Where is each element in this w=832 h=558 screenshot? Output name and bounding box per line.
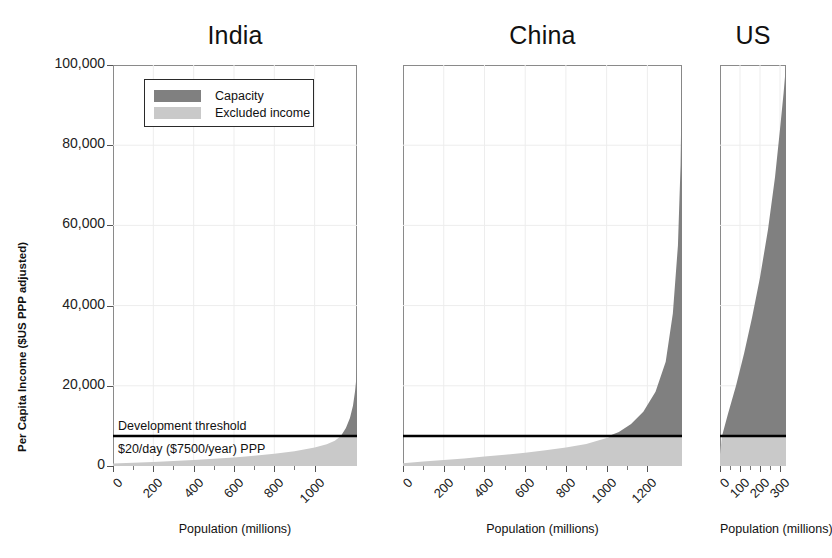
x-minor-tick-mark	[586, 466, 587, 470]
x-minor-tick-mark	[730, 466, 731, 470]
y-tick-label: 100,000	[15, 55, 105, 71]
y-tick-label: 60,000	[15, 215, 105, 231]
x-minor-tick-mark	[133, 466, 134, 470]
panel-title-us: US	[720, 21, 786, 50]
x-tick-mark	[566, 466, 567, 472]
x-tick-mark	[484, 466, 485, 472]
x-tick-mark	[780, 466, 781, 472]
chart-legend: CapacityExcluded income	[144, 79, 314, 127]
x-tick-mark	[760, 466, 761, 472]
threshold-label-below: $20/day ($7500/year) PPP	[118, 442, 265, 456]
x-tick-mark	[720, 466, 721, 472]
x-tick-mark	[113, 466, 114, 472]
y-tick-label: 0	[15, 456, 105, 472]
area-capacity	[609, 65, 682, 436]
panel-title-china: China	[403, 21, 682, 50]
legend-item-capacity: Capacity	[154, 87, 313, 104]
panel-title-india: India	[113, 21, 357, 50]
x-tick-mark	[153, 466, 154, 472]
legend-label: Capacity	[215, 89, 264, 103]
x-tick-mark	[403, 466, 404, 472]
x-minor-tick-mark	[173, 466, 174, 470]
x-tick-mark	[647, 466, 648, 472]
y-tick-label: 80,000	[15, 135, 105, 151]
x-axis-label-india: Population (millions)	[113, 522, 357, 536]
x-minor-tick-mark	[464, 466, 465, 470]
area-capacity	[722, 65, 786, 436]
x-minor-tick-mark	[770, 466, 771, 470]
x-minor-tick-mark	[750, 466, 751, 470]
x-minor-tick-mark	[627, 466, 628, 470]
x-tick-mark	[194, 466, 195, 472]
area-capacity	[341, 366, 357, 436]
x-tick-mark	[607, 466, 608, 472]
x-tick-mark	[444, 466, 445, 472]
x-minor-tick-mark	[423, 466, 424, 470]
x-minor-tick-mark	[254, 466, 255, 470]
area-excluded-income-below-threshold	[609, 436, 682, 466]
figure-canvas: Per Capita Income ($US PPP adjusted)020,…	[0, 0, 832, 558]
plot-svg-china	[403, 65, 682, 466]
legend-swatch-capacity	[154, 90, 201, 102]
x-minor-tick-mark	[546, 466, 547, 470]
area-excluded-income-below-threshold	[722, 436, 786, 466]
x-tick-mark	[274, 466, 275, 472]
x-tick-mark	[525, 466, 526, 472]
y-tick-label: 40,000	[15, 296, 105, 312]
x-axis-label-us: Population (millions)	[720, 522, 786, 536]
legend-swatch-excluded-income	[154, 107, 201, 119]
x-minor-tick-mark	[294, 466, 295, 470]
legend-item-excluded-income: Excluded income	[154, 104, 313, 121]
y-tick-label: 20,000	[15, 376, 105, 392]
area-excluded-income-below-threshold	[341, 436, 357, 466]
x-tick-mark	[234, 466, 235, 472]
x-tick-mark	[315, 466, 316, 472]
threshold-label-above: Development threshold	[118, 419, 247, 433]
x-minor-tick-mark	[505, 466, 506, 470]
x-tick-mark	[740, 466, 741, 472]
x-minor-tick-mark	[214, 466, 215, 470]
y-axis-label: Per Capita Income ($US PPP adjusted)	[16, 242, 28, 452]
x-axis-label-china: Population (millions)	[403, 522, 682, 536]
plot-svg-us	[720, 65, 786, 466]
legend-label: Excluded income	[215, 106, 310, 120]
